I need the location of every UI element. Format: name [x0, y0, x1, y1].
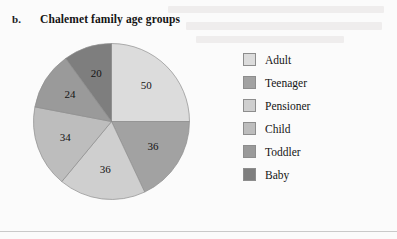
bleed-through-artifact: [186, 22, 382, 30]
legend-item-adult: Adult: [243, 48, 373, 71]
pie-slices: [34, 44, 190, 200]
legend-item-toddler: Toddler: [243, 140, 373, 163]
legend-label-teenager: Teenager: [265, 77, 307, 89]
legend-item-baby: Baby: [243, 163, 373, 186]
legend-swatch-baby: [243, 168, 256, 181]
legend-swatch-child: [243, 122, 256, 135]
pie-chart-svg: 503636342420: [33, 43, 190, 200]
legend-item-teenager: Teenager: [243, 71, 373, 94]
chart-title: Chalemet family age groups: [40, 13, 180, 25]
legend-label-pensioner: Pensioner: [265, 100, 310, 112]
question-item-marker: b.: [12, 13, 21, 25]
pie-slice-value-adult: 50: [141, 79, 153, 91]
legend-swatch-adult: [243, 53, 256, 66]
pie-slice-value-child: 34: [60, 131, 72, 143]
legend-swatch-teenager: [243, 76, 256, 89]
legend-label-child: Child: [265, 123, 291, 135]
legend-swatch-pensioner: [243, 99, 256, 112]
pie-slice-value-pensioner: 36: [100, 163, 112, 175]
pie-slice-value-toddler: 24: [65, 88, 77, 100]
legend-label-toddler: Toddler: [265, 146, 301, 158]
pie-slice-value-teenager: 36: [147, 140, 159, 152]
page-background: b. Chalemet family age groups 5036363424…: [0, 0, 397, 239]
bleed-through-artifact: [196, 36, 344, 43]
pie-chart: 503636342420: [33, 43, 190, 200]
legend-item-child: Child: [243, 117, 373, 140]
pie-slice-value-baby: 20: [91, 67, 103, 79]
legend-label-baby: Baby: [265, 169, 289, 181]
legend-label-adult: Adult: [265, 54, 291, 66]
legend-swatch-toddler: [243, 145, 256, 158]
legend-item-pensioner: Pensioner: [243, 94, 373, 117]
bleed-through-artifact: [168, 6, 384, 13]
page-divider: [0, 231, 397, 232]
legend: AdultTeenagerPensionerChildToddlerBaby: [243, 48, 373, 186]
